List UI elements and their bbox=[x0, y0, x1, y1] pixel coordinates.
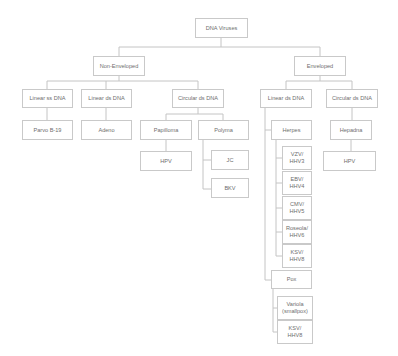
node-roseola-hhv6: Roseola/ HHV6 bbox=[282, 220, 312, 244]
node-cmv-hhv5: CMV/ HHV5 bbox=[282, 196, 312, 220]
node-bkv: BKV bbox=[211, 178, 249, 198]
connector-lines bbox=[0, 0, 398, 356]
node-ne-circular-ds-dna: Circular ds DNA bbox=[172, 89, 224, 108]
node-dna-viruses: DNA Viruses bbox=[195, 18, 248, 38]
node-variola-smallpox: Variola (smallpox) bbox=[277, 296, 313, 320]
node-non-enveloped: Non-Enveloped bbox=[93, 56, 145, 76]
node-hpv-hepadna: HPV bbox=[323, 151, 376, 171]
node-ne-linear-ds-dna: Linear ds DNA bbox=[81, 89, 132, 108]
node-polyma: Polyma bbox=[198, 120, 249, 140]
dna-virus-classification-diagram: DNA Viruses Non-Enveloped Enveloped Line… bbox=[0, 0, 398, 356]
node-papilloma: Papilloma bbox=[140, 120, 192, 140]
node-ksv-hhv8-herpes: KSV/ HHV8 bbox=[282, 244, 312, 268]
node-adeno: Adeno bbox=[81, 120, 132, 140]
node-parvo-b19: Parvo B-19 bbox=[22, 120, 73, 140]
node-vzv-hhv3: VZV/ HHV3 bbox=[282, 146, 312, 170]
node-e-circular-ds-dna: Circular ds DNA bbox=[326, 89, 378, 108]
node-ne-linear-ss-dna: Linear ss DNA bbox=[22, 89, 73, 108]
node-herpes: Herpes bbox=[271, 120, 312, 140]
node-ebv-hhv4: EBV/ HHV4 bbox=[282, 171, 312, 195]
node-hepadna: Hepadna bbox=[330, 120, 372, 140]
node-e-linear-ds-dna: Linear ds DNA bbox=[260, 89, 312, 108]
node-jc: JC bbox=[211, 150, 249, 170]
node-hpv-papilloma: HPV bbox=[140, 151, 192, 171]
node-pox: Pox bbox=[271, 270, 312, 289]
node-ksv-hhv8-pox: KSV/ HHV8 bbox=[277, 320, 313, 344]
node-enveloped: Enveloped bbox=[294, 56, 346, 76]
